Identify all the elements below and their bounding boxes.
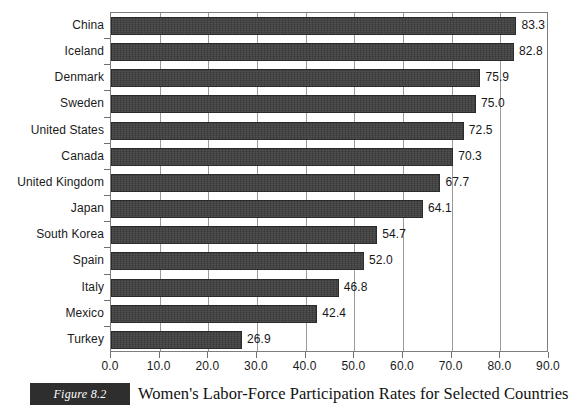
- x-axis-tick-label: 40.0: [293, 359, 317, 374]
- bar[interactable]: [111, 174, 440, 192]
- bar-row: 75.0: [111, 91, 547, 117]
- bar-value-label: 64.1: [428, 199, 452, 218]
- x-axis-tick-label: 60.0: [390, 359, 414, 374]
- figure-caption-block: Figure 8.2 Women's Labor-Force Participa…: [0, 382, 565, 405]
- y-axis-label: Japan: [0, 195, 104, 221]
- y-axis-category-labels: ChinaIcelandDenmarkSwedenUnited StatesCa…: [0, 12, 104, 352]
- y-axis-label: United Kingdom: [0, 169, 104, 195]
- x-axis: 0.010.020.030.040.050.060.070.080.090.0: [110, 352, 548, 378]
- bar[interactable]: [111, 279, 339, 297]
- x-axis-tick: [499, 352, 500, 358]
- bar-value-label: 83.3: [521, 16, 545, 35]
- y-axis-label: Spain: [0, 247, 104, 273]
- x-axis-tick-label: 10.0: [147, 359, 171, 374]
- bar-value-label: 52.0: [369, 251, 393, 270]
- bar[interactable]: [111, 200, 423, 218]
- bar-value-label: 46.8: [344, 278, 368, 297]
- x-axis-tick: [305, 352, 306, 358]
- bar[interactable]: [111, 148, 453, 166]
- bar[interactable]: [111, 17, 516, 35]
- bar-row: 64.1: [111, 196, 547, 222]
- bar-row: 26.9: [111, 327, 547, 353]
- bar-value-label: 54.7: [382, 225, 406, 244]
- bar[interactable]: [111, 305, 317, 323]
- bar[interactable]: [111, 43, 514, 61]
- y-axis-label: Denmark: [0, 64, 104, 90]
- y-axis-label: Turkey: [0, 326, 104, 352]
- bar[interactable]: [111, 69, 480, 87]
- bar[interactable]: [111, 331, 242, 349]
- bar-value-label: 67.7: [445, 173, 469, 192]
- y-axis-label: Iceland: [0, 38, 104, 64]
- figure-number-badge: Figure 8.2: [30, 383, 130, 405]
- bar[interactable]: [111, 226, 377, 244]
- y-axis-label: Canada: [0, 143, 104, 169]
- bar-value-label: 75.9: [485, 68, 509, 87]
- bar-value-label: 75.0: [481, 94, 505, 113]
- bar-value-label: 82.8: [519, 42, 543, 61]
- bar-row: 82.8: [111, 39, 547, 65]
- y-axis-label: South Korea: [0, 221, 104, 247]
- x-axis-tick: [548, 352, 549, 358]
- figure-caption-text: Women's Labor-Force Participation Rates …: [138, 382, 569, 405]
- bar-row: 46.8: [111, 275, 547, 301]
- x-axis-tick-label: 30.0: [244, 359, 268, 374]
- y-axis-label: Sweden: [0, 90, 104, 116]
- bar-row: 72.5: [111, 118, 547, 144]
- x-axis-tick: [402, 352, 403, 358]
- x-axis-tick-label: 0.0: [102, 359, 119, 374]
- x-axis-tick-label: 70.0: [439, 359, 463, 374]
- x-axis-tick-label: 80.0: [487, 359, 511, 374]
- bar-row: 42.4: [111, 301, 547, 327]
- bar[interactable]: [111, 122, 464, 140]
- x-axis-tick-label: 90.0: [536, 359, 560, 374]
- bar-row: 75.9: [111, 65, 547, 91]
- bar-row: 83.3: [111, 13, 547, 39]
- bars-layer: 83.382.875.975.072.570.367.764.154.752.0…: [111, 13, 547, 351]
- bar-row: 70.3: [111, 144, 547, 170]
- x-axis-tick: [207, 352, 208, 358]
- x-axis-tick: [256, 352, 257, 358]
- plot-area: 83.382.875.975.072.570.367.764.154.752.0…: [110, 12, 548, 352]
- x-axis-tick: [353, 352, 354, 358]
- bar[interactable]: [111, 252, 364, 270]
- x-axis-tick-label: 20.0: [195, 359, 219, 374]
- x-axis-tick-label: 50.0: [341, 359, 365, 374]
- bar-value-label: 26.9: [247, 330, 271, 349]
- bar[interactable]: [111, 95, 476, 113]
- bar-value-label: 72.5: [469, 121, 493, 140]
- y-axis-label: Mexico: [0, 300, 104, 326]
- bar-value-label: 42.4: [322, 304, 346, 323]
- y-axis-label: China: [0, 12, 104, 38]
- x-axis-tick: [451, 352, 452, 358]
- x-axis-tick: [110, 352, 111, 358]
- y-axis-label: United States: [0, 117, 104, 143]
- bar-row: 54.7: [111, 222, 547, 248]
- bar-row: 52.0: [111, 248, 547, 274]
- bar-chart: ChinaIcelandDenmarkSwedenUnited StatesCa…: [0, 0, 565, 372]
- x-axis-tick: [159, 352, 160, 358]
- bar-row: 67.7: [111, 170, 547, 196]
- y-axis-label: Italy: [0, 274, 104, 300]
- bar-value-label: 70.3: [458, 147, 482, 166]
